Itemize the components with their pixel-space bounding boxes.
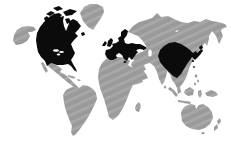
world-map-image: [0, 0, 231, 149]
region-sri-lanka: [164, 85, 167, 88]
region-philippines-luzon: [195, 74, 198, 78]
region-philippines-mindanao: [194, 83, 196, 85]
great-lake-superior: [53, 49, 59, 51]
region-sicily: [124, 61, 127, 63]
region-japan-kyushu: [192, 60, 194, 62]
caspian-sea: [148, 50, 152, 57]
black-sea: [137, 49, 144, 52]
great-lake-erie: [57, 54, 61, 56]
region-tasmania: [202, 132, 205, 134]
world-map: [0, 0, 231, 149]
great-lake-huron: [59, 51, 64, 53]
region-philippines-visayas: [197, 80, 199, 83]
region-taiwan: [193, 66, 195, 68]
